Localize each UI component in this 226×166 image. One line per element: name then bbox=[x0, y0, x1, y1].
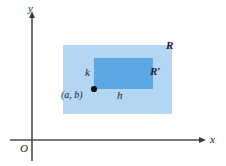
inner-region-label: R′ bbox=[150, 66, 160, 77]
height-dimension-label: k bbox=[85, 67, 90, 78]
math-figure-canvas: y x O R R′ k h (a, b) bbox=[0, 0, 226, 166]
y-axis-label: y bbox=[28, 3, 33, 14]
width-dimension-label: h bbox=[117, 90, 123, 101]
inner-region-rect bbox=[94, 58, 153, 89]
figure-vector-layer bbox=[0, 0, 226, 166]
x-axis-label: x bbox=[210, 134, 215, 145]
origin-label: O bbox=[20, 143, 28, 154]
corner-point-label: (a, b) bbox=[61, 90, 83, 100]
corner-point-marker bbox=[91, 86, 97, 92]
outer-region-label: R bbox=[166, 40, 173, 51]
x-axis-arrowhead bbox=[199, 137, 206, 143]
